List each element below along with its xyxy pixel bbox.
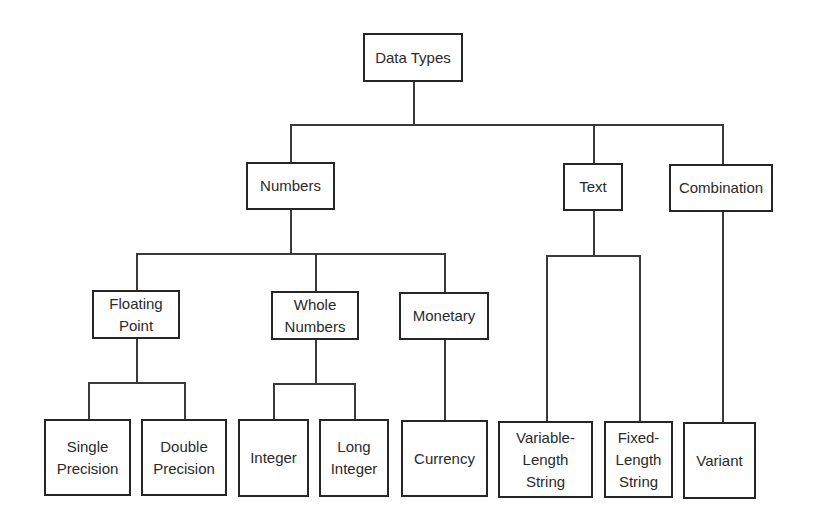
connector-line — [722, 212, 724, 422]
connector-line — [136, 253, 444, 255]
connector-line — [546, 255, 639, 257]
node-fixed-length-string: Fixed- Length String — [604, 421, 673, 498]
connector-line — [88, 382, 184, 384]
connector-line — [639, 255, 641, 421]
connector-line — [290, 124, 292, 162]
node-single-precision: Single Precision — [44, 419, 131, 496]
connector-line — [593, 124, 595, 163]
node-combination: Combination — [669, 164, 773, 212]
connector-line — [290, 210, 292, 253]
node-data-types: Data Types — [363, 33, 463, 82]
node-text: Text — [563, 163, 623, 211]
node-integer: Integer — [238, 419, 309, 497]
connector-line — [546, 255, 548, 421]
node-floating-point: Floating Point — [92, 290, 180, 339]
data-types-hierarchy-diagram: Data TypesNumbersTextCombinationFloating… — [0, 0, 814, 521]
node-variant: Variant — [683, 422, 756, 499]
connector-line — [136, 253, 138, 290]
node-monetary: Monetary — [399, 292, 489, 340]
connector-line — [315, 340, 317, 383]
node-long-integer: Long Integer — [319, 419, 389, 497]
connector-line — [413, 82, 415, 125]
connector-line — [136, 339, 138, 382]
connector-line — [354, 383, 356, 419]
node-variable-length-string: Variable- Length String — [498, 421, 593, 498]
node-double-precision: Double Precision — [141, 419, 227, 496]
node-currency: Currency — [401, 420, 488, 497]
connector-line — [88, 382, 90, 419]
connector-line — [593, 211, 595, 255]
connector-line — [273, 383, 275, 419]
connector-line — [184, 382, 186, 419]
node-numbers: Numbers — [246, 162, 335, 210]
connector-line — [444, 253, 446, 292]
connector-line — [444, 340, 446, 420]
connector-line — [315, 253, 317, 291]
connector-line — [273, 383, 354, 385]
node-whole-numbers: Whole Numbers — [271, 291, 359, 340]
connector-line — [290, 124, 723, 126]
connector-line — [722, 124, 724, 164]
